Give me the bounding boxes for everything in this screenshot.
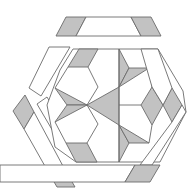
figure-canvas: Hexagonal geometric tiling pattern xyxy=(0,0,192,194)
bottom-band xyxy=(0,165,160,182)
tiling-diagram xyxy=(0,0,192,194)
top-band-middle xyxy=(76,17,141,36)
top-band xyxy=(56,17,161,36)
bottom-band-white xyxy=(0,165,135,182)
